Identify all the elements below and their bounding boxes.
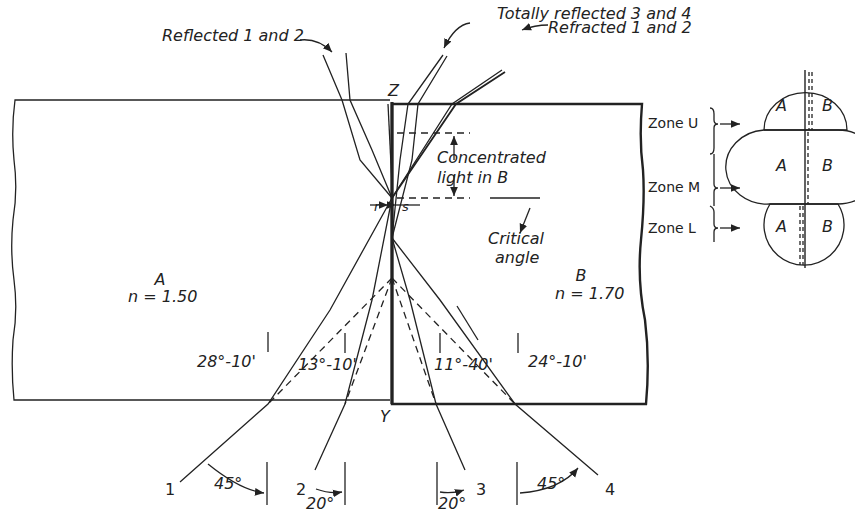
zone-l-a: A [776, 219, 787, 235]
angle-label-24: 24°-10' [528, 354, 587, 370]
ray-4-label: 4 [605, 482, 615, 498]
angle-label-13: 13°-10' [298, 357, 357, 373]
zone-m-a: A [776, 158, 787, 174]
zone-l-label: Zone L [648, 221, 696, 235]
critical-angle-label-1: Critical [488, 231, 544, 247]
refraction-diagram [0, 0, 855, 514]
concentrated-light-label-2: light in B [437, 170, 508, 186]
medium-b-name: B [566, 268, 596, 284]
zone-m-b: B [822, 158, 833, 174]
angle-label-28: 28°-10' [197, 354, 256, 370]
refracted-callout: Refracted 1 and 2 [548, 20, 692, 36]
medium-b-index: n = 1.70 [555, 286, 624, 302]
medium-a-name: A [135, 272, 185, 288]
ray-1-angle: 45° [214, 476, 242, 492]
s-label: s [402, 200, 409, 213]
ray-1-label: 1 [165, 482, 175, 498]
zone-m-label: Zone M [648, 180, 700, 194]
ray-2-angle: 20° [306, 496, 334, 512]
ray-3-angle: 20° [438, 496, 466, 512]
zone-l-b: B [822, 219, 833, 235]
point-y-label: Y [380, 409, 390, 425]
zone-u-b: B [822, 98, 833, 114]
zone-u-label: Zone U [648, 116, 698, 130]
zone-u-a: A [776, 98, 787, 114]
point-z-label: Z [388, 83, 399, 99]
critical-angle-label-2: angle [495, 250, 539, 266]
ray-3-label: 3 [476, 482, 486, 498]
medium-a-index: n = 1.50 [128, 289, 197, 305]
r-label: r [374, 200, 379, 213]
reflected-callout: Reflected 1 and 2 [162, 28, 304, 44]
angle-label-11: 11°-40' [434, 357, 493, 373]
ray-4-angle: 45° [537, 476, 565, 492]
ray-2-label: 2 [296, 482, 306, 498]
concentrated-light-label-1: Concentrated [437, 150, 546, 166]
